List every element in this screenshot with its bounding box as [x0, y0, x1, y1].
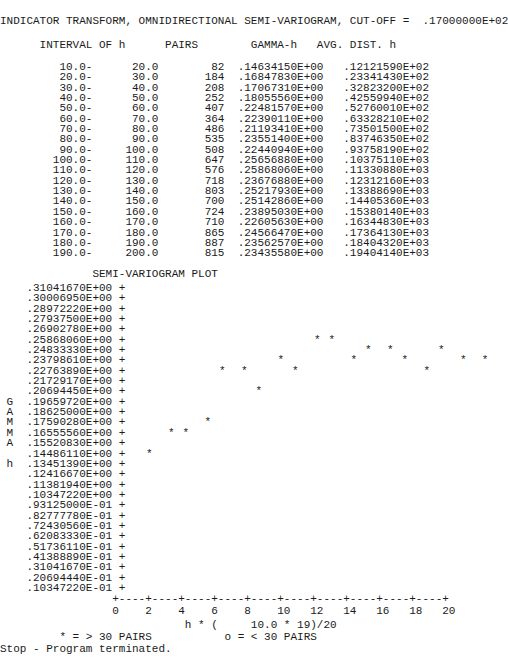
plot-data-point: * [329, 335, 336, 345]
plot-title: SEMI-VARIOGRAM PLOT [0, 269, 218, 279]
y-axis-tick-label: .93125000E-01 + [0, 500, 125, 510]
y-axis-tick-label: .10347220E-01 + [0, 583, 125, 593]
plot-row: .12416670E+00 + [0, 469, 125, 479]
table-column-headers: INTERVAL OF h PAIRS GAMMA-h AVG. DIST. h [0, 40, 396, 50]
y-axis-tick-label: A .15520830E+00 + [0, 438, 125, 448]
plot-legend: * = > 30 PAIRS o = < 30 PAIRS [0, 632, 317, 642]
report-title: INDICATOR TRANSFORM, OMNIDIRECTIONAL SEM… [0, 16, 508, 26]
variogram-data-table: 10.0- 20.0 82 .14634150E+00 .12121590E+0… [0, 62, 429, 259]
table-row: 190.0- 200.0 815 .23435580E+00 .19404140… [0, 248, 429, 258]
plot-data-point: * [365, 345, 372, 355]
semi-variogram-plot: .31041670E+00 + .30006950E+00 + .2897222… [0, 283, 125, 593]
table-row: 160.0- 170.0 710 .22605630E+00 .16344830… [0, 217, 429, 227]
plot-data-point: * [241, 366, 248, 376]
y-axis-tick-label: .12416670E+00 + [0, 469, 125, 479]
plot-data-point: * [314, 335, 321, 345]
plot-data-point: * [438, 345, 445, 355]
plot-data-point: * [423, 366, 430, 376]
plot-data-point: * [277, 355, 284, 365]
plot-data-point: * [402, 355, 409, 365]
plot-data-point: * [146, 449, 153, 459]
x-axis-label: h * ( 10.0 * 19)/20 [0, 620, 337, 630]
plot-data-point: * [350, 355, 357, 365]
plot-data-point: * [168, 428, 175, 438]
x-axis-tick-labels: 0 2 4 6 8 10 12 14 16 18 20 [0, 606, 455, 616]
plot-data-point: * [482, 355, 489, 365]
program-output-listing: INDICATOR TRANSFORM, OMNIDIRECTIONAL SEM… [0, 0, 508, 228]
stop-message: Stop - Program terminated. [0, 644, 172, 654]
plot-data-point: * [256, 386, 263, 396]
x-axis-line: +----+----+----+----+----+----+----+----… [0, 594, 449, 604]
plot-data-point: * [387, 345, 394, 355]
plot-data-point: * [204, 417, 211, 427]
plot-data-point: * [219, 366, 226, 376]
plot-data-point: * [292, 366, 299, 376]
plot-row: .10347220E-01 + [0, 583, 125, 593]
plot-row: A .15520830E+00 + [0, 438, 125, 448]
plot-row: .93125000E-01 + [0, 500, 125, 510]
plot-data-point: * [460, 355, 467, 365]
plot-data-point: * [183, 428, 190, 438]
